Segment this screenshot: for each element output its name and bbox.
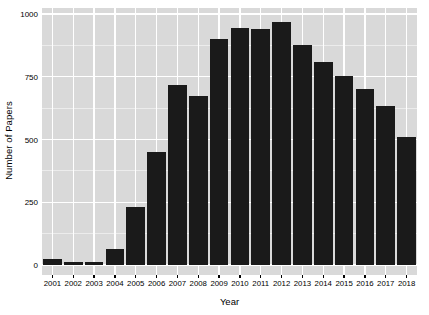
bar	[106, 249, 125, 265]
bar	[168, 85, 187, 265]
y-tick-label: 0	[14, 261, 38, 270]
x-tick-mark	[135, 275, 136, 278]
x-tick-mark	[260, 275, 261, 278]
bar	[43, 259, 62, 265]
x-tick-label: 2011	[252, 279, 269, 288]
bar	[397, 137, 416, 266]
x-tick-mark	[52, 275, 53, 278]
y-axis-tick-labels: 02505007501000	[14, 0, 38, 280]
bars-layer	[42, 8, 417, 275]
x-tick-mark	[198, 275, 199, 278]
x-tick-label: 2018	[398, 279, 415, 288]
bar-chart: Number of Papers 02505007501000 20012002…	[0, 0, 429, 315]
y-tick-label: 750	[14, 72, 38, 81]
x-tick-mark	[156, 275, 157, 278]
bar	[335, 76, 354, 265]
x-tick-label: 2012	[273, 279, 290, 288]
bar	[272, 22, 291, 265]
y-tick-label: 250	[14, 198, 38, 207]
bar	[85, 262, 104, 265]
bar	[210, 39, 229, 265]
x-tick-label: 2015	[335, 279, 352, 288]
x-tick-mark	[343, 275, 344, 278]
bar	[376, 106, 395, 265]
x-tick-label: 2017	[377, 279, 394, 288]
x-tick-mark	[93, 275, 94, 278]
bar	[314, 62, 333, 265]
x-axis-title: Year	[42, 296, 417, 307]
x-tick-label: 2014	[315, 279, 332, 288]
x-tick-mark	[281, 275, 282, 278]
x-tick-label: 2009	[210, 279, 227, 288]
x-tick-label: 2008	[190, 279, 207, 288]
x-tick-label: 2001	[44, 279, 61, 288]
bar	[147, 152, 166, 265]
y-axis-title-text: Number of Papers	[3, 101, 14, 180]
x-axis: 2001200220032004200520062007200820092010…	[42, 275, 417, 295]
x-tick-label: 2005	[127, 279, 144, 288]
x-tick-label: 2006	[148, 279, 165, 288]
x-tick-mark	[114, 275, 115, 278]
x-tick-mark	[218, 275, 219, 278]
x-tick-label: 2016	[356, 279, 373, 288]
plot-panel	[42, 8, 417, 275]
bar	[251, 29, 270, 265]
bar	[356, 89, 375, 265]
x-tick-mark	[364, 275, 365, 278]
bar	[126, 207, 145, 265]
x-tick-label: 2003	[85, 279, 102, 288]
x-tick-label: 2010	[231, 279, 248, 288]
x-tick-mark	[239, 275, 240, 278]
x-tick-label: 2002	[65, 279, 82, 288]
bar	[64, 262, 83, 265]
y-tick-label: 500	[14, 135, 38, 144]
x-tick-mark	[177, 275, 178, 278]
x-tick-label: 2013	[294, 279, 311, 288]
x-tick-mark	[73, 275, 74, 278]
bar	[231, 28, 250, 265]
x-tick-label: 2004	[106, 279, 123, 288]
x-tick-mark	[385, 275, 386, 278]
y-tick-label: 1000	[14, 10, 38, 19]
x-tick-mark	[323, 275, 324, 278]
x-tick-mark	[406, 275, 407, 278]
bar	[189, 96, 208, 265]
x-tick-mark	[302, 275, 303, 278]
bar	[293, 45, 312, 265]
x-tick-label: 2007	[169, 279, 186, 288]
